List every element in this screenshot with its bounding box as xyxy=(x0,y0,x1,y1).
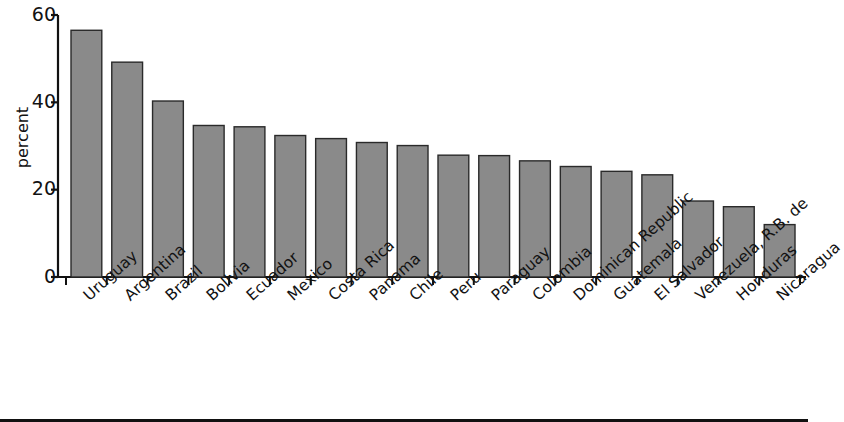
bar xyxy=(316,139,347,277)
bar xyxy=(764,225,795,277)
plot-area xyxy=(0,0,808,300)
bar xyxy=(520,161,551,277)
bar xyxy=(193,125,224,277)
bar xyxy=(683,201,714,277)
bar xyxy=(234,127,265,277)
bar xyxy=(112,62,143,277)
bar xyxy=(275,136,306,277)
bar xyxy=(601,171,632,277)
bar xyxy=(642,175,673,277)
bar xyxy=(397,146,428,277)
bar xyxy=(438,155,469,277)
bar xyxy=(723,207,754,277)
bar xyxy=(560,167,591,277)
bar xyxy=(356,143,387,277)
bar xyxy=(153,101,184,277)
bar xyxy=(71,30,102,277)
bar xyxy=(479,156,510,277)
